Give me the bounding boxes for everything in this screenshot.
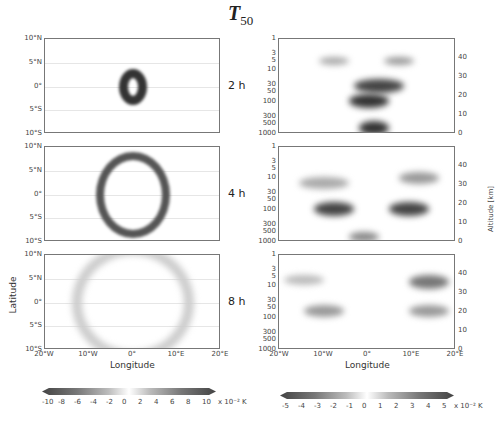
lat-tick: 0°: [12, 190, 42, 198]
lat-tick: 10°S: [12, 237, 42, 245]
pressure-tick: 1000: [250, 237, 276, 245]
lon-tick: 10°E: [162, 350, 190, 358]
colorbar-tick: -1: [346, 402, 353, 410]
wave-band: [389, 202, 429, 216]
altitude-label: Altitude [km]: [487, 186, 495, 232]
anomaly-ring: [119, 69, 147, 105]
pressure-tick: 5: [250, 272, 276, 280]
pressure-tick: 100: [250, 313, 276, 321]
lat-tick: 10°N: [12, 34, 42, 42]
colorbar-tick: -6: [74, 398, 81, 406]
wave-band: [354, 79, 404, 93]
colorbar-tick: -3: [314, 402, 321, 410]
pressure-tick: 5: [250, 56, 276, 64]
colorbar-tick: -10: [42, 398, 53, 406]
colorbar-tick: 4: [154, 398, 158, 406]
wave-band: [284, 275, 324, 285]
wave-band: [319, 57, 349, 65]
lat-tick: 5°S: [12, 321, 42, 329]
lat-tick: 10°N: [12, 142, 42, 150]
colorbar-tick: 2: [138, 398, 142, 406]
colorbar-tick: -5: [282, 402, 289, 410]
wave-band: [409, 275, 449, 289]
colorbar-tick: 0: [122, 398, 126, 406]
right-colorbar: [280, 392, 454, 399]
pressure-lon-panel: [278, 254, 455, 349]
right-xlabel: Longitude: [345, 360, 390, 370]
lon-tick: 0°: [118, 350, 146, 358]
lon-tick: 10°E: [397, 350, 425, 358]
pressure-tick: 50: [250, 303, 276, 311]
pressure-tick: 500: [250, 227, 276, 235]
colorbar-tick: -4: [298, 402, 305, 410]
altitude-tick: 10: [458, 110, 467, 118]
lon-tick: 20°W: [265, 350, 293, 358]
altitude-tick: 30: [458, 180, 467, 188]
colorbar-tick: 8: [186, 398, 190, 406]
colorbar-tick: 3: [410, 402, 414, 410]
lat-tick: 5°N: [12, 58, 42, 66]
altitude-tick: 0: [458, 129, 462, 137]
latlon-panel: [44, 146, 220, 241]
colorbar-tick: 6: [170, 398, 174, 406]
anomaly-ring: [96, 152, 170, 238]
colorbar-tick: -2: [106, 398, 113, 406]
colorbar-tick: -8: [58, 398, 65, 406]
pressure-lon-panel: [278, 146, 455, 241]
lat-tick: 10°S: [12, 129, 42, 137]
altitude-tick: 30: [458, 288, 467, 296]
altitude-tick: 30: [458, 72, 467, 80]
row-label: 4 h: [228, 187, 245, 200]
altitude-tick: 40: [458, 161, 467, 169]
wave-band: [359, 121, 389, 133]
wave-band: [304, 305, 344, 317]
pressure-tick: 1: [250, 34, 276, 42]
wave-band: [299, 177, 349, 189]
colorbar-tick: 1: [378, 402, 382, 410]
lon-tick: 10°W: [74, 350, 102, 358]
pressure-tick: 50: [250, 87, 276, 95]
colorbar-tick: 4: [426, 402, 430, 410]
colorbar-tick: 10: [202, 398, 211, 406]
pressure-tick: 1: [250, 142, 276, 150]
colorbar-tick: -2: [330, 402, 337, 410]
left-ylabel: Latitude: [8, 276, 18, 313]
wave-band: [314, 202, 354, 216]
pressure-tick: 100: [250, 97, 276, 105]
lon-tick: 10°W: [309, 350, 337, 358]
altitude-tick: 40: [458, 269, 467, 277]
row-label: 8 h: [228, 295, 245, 308]
pressure-tick: 500: [250, 119, 276, 127]
wave-band: [399, 172, 439, 184]
pressure-tick: 100: [250, 205, 276, 213]
altitude-tick: 20: [458, 91, 467, 99]
colorbar-tick: 2: [394, 402, 398, 410]
colorbar-unit: x 10⁻² K: [454, 402, 483, 410]
lat-tick: 10°N: [12, 250, 42, 258]
pressure-tick: 500: [250, 335, 276, 343]
pressure-tick: 10: [250, 173, 276, 181]
lon-tick: 20°E: [206, 350, 234, 358]
colorbar-tick: 0: [362, 402, 366, 410]
pressure-tick: 1: [250, 250, 276, 258]
pressure-tick: 50: [250, 195, 276, 203]
altitude-tick: 0: [458, 237, 462, 245]
lat-tick: 5°S: [12, 105, 42, 113]
lon-tick: 0°: [353, 350, 381, 358]
colorbar-unit: x 10⁻² K: [218, 398, 247, 406]
altitude-tick: 10: [458, 218, 467, 226]
pressure-tick: 5: [250, 164, 276, 172]
lat-tick: 5°N: [12, 166, 42, 174]
altitude-tick: 40: [458, 53, 467, 61]
left-xlabel: Longitude: [110, 360, 155, 370]
colorbar-tick: -4: [90, 398, 97, 406]
altitude-tick: 10: [458, 326, 467, 334]
lat-tick: 0°: [12, 82, 42, 90]
latlon-panel: [44, 38, 220, 133]
pressure-tick: 10: [250, 65, 276, 73]
row-label: 2 h: [228, 79, 245, 92]
altitude-tick: 20: [458, 199, 467, 207]
pressure-lon-panel: [278, 38, 455, 133]
figure-title: T50: [228, 2, 253, 29]
lon-tick: 20°W: [30, 350, 58, 358]
